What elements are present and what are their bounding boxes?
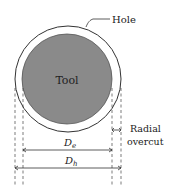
overcut-label: overcut xyxy=(127,136,164,147)
radial-overcut-dimension xyxy=(112,128,121,132)
de-label: De xyxy=(63,137,76,150)
hole-label: Hole xyxy=(112,14,136,25)
tool-label: Tool xyxy=(55,74,79,87)
radial-label: Radial xyxy=(130,123,161,134)
dh-dimension-line xyxy=(15,166,121,170)
overcut-diagram: Tool Hole Radial overcut De Dh xyxy=(0,0,177,192)
de-dimension-line xyxy=(23,148,112,152)
hole-leader-line xyxy=(86,19,110,27)
dh-label: Dh xyxy=(64,155,78,168)
